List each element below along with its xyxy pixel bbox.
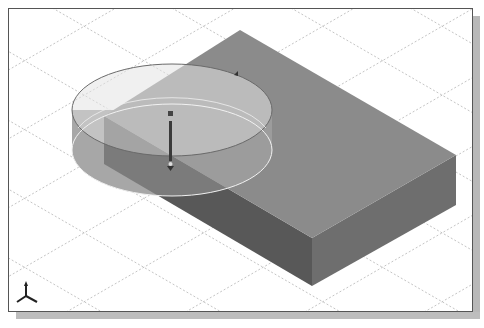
frame-shadow-right: [473, 16, 480, 318]
frame-shadow-bottom: [16, 312, 480, 319]
model-viewport[interactable]: [8, 8, 473, 312]
axis-triad-icon: [17, 281, 37, 302]
